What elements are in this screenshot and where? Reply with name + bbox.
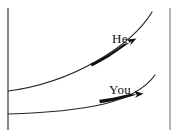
curve-label-he: He (112, 32, 128, 45)
curve-label-you: You (109, 83, 131, 96)
figure-canvas (0, 0, 180, 137)
upper-curve-he (8, 12, 152, 91)
growth-curves-figure: He You (0, 0, 180, 137)
